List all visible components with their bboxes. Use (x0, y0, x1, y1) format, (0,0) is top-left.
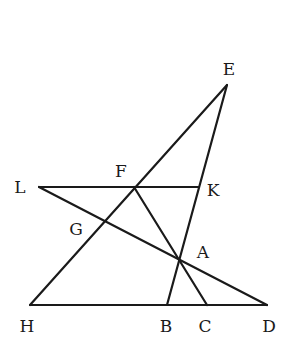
segments-group (30, 85, 267, 305)
point-label-c: C (198, 316, 211, 336)
point-label-h: H (20, 316, 35, 336)
point-label-e: E (223, 59, 235, 79)
point-label-d: D (262, 316, 276, 336)
line-LD (39, 187, 267, 305)
labels-group: EFLKGAHBCD (14, 59, 275, 336)
point-label-k: K (207, 180, 220, 200)
geometry-diagram: EFLKGAHBCD (0, 0, 300, 352)
point-label-b: B (160, 316, 173, 336)
point-label-g: G (69, 219, 83, 239)
point-label-a: A (196, 242, 210, 262)
point-label-f: F (115, 161, 127, 181)
point-label-l: L (14, 177, 25, 197)
